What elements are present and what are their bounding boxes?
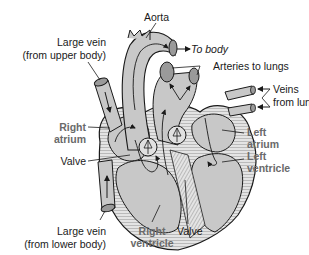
- label-right-ventricle-1: Right: [126, 226, 178, 237]
- pulmonary-veins: [225, 86, 270, 116]
- label-large-vein-lower-1: Large vein: [57, 226, 106, 237]
- label-left-atrium-2: atrium: [247, 139, 279, 150]
- upper-large-vein: [93, 76, 122, 132]
- label-large-vein-upper-1: Large vein: [57, 37, 106, 48]
- label-left-ventricle-2: ventricle: [247, 163, 290, 174]
- label-right-ventricle-2: ventricle: [126, 238, 178, 249]
- label-valve-left: Valve: [61, 156, 87, 167]
- label-aorta: Aorta: [144, 12, 169, 23]
- label-to-body: To body: [191, 44, 228, 55]
- label-veins-from-lungs-2: from lungs: [273, 97, 309, 108]
- label-left-atrium-1: Left: [247, 127, 266, 138]
- label-right-atrium-2: atrium: [54, 134, 86, 145]
- label-large-vein-upper-2: (from upper body): [23, 50, 106, 61]
- label-arteries-to-lungs: Arteries to lungs: [213, 61, 289, 72]
- label-veins-from-lungs-1: Veins: [273, 84, 299, 95]
- label-large-vein-lower-2: (from lower body): [24, 239, 106, 250]
- label-left-ventricle-1: Left: [247, 151, 266, 162]
- label-right-atrium-1: Right: [59, 122, 86, 133]
- label-valve-bottom: Valve: [177, 226, 203, 237]
